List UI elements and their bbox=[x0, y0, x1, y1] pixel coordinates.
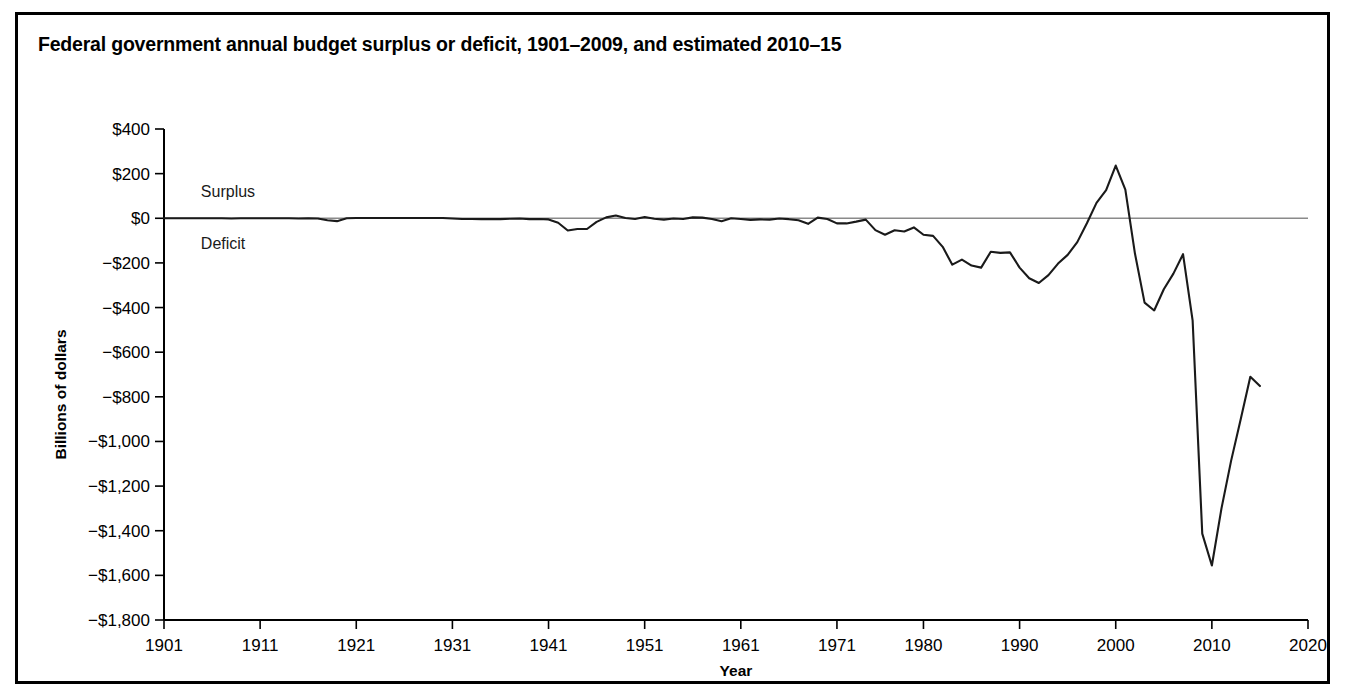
x-axis-title: Year bbox=[720, 662, 753, 679]
y-tick-label: −$1,800 bbox=[88, 611, 150, 630]
y-tick-label: $400 bbox=[112, 120, 150, 139]
x-tick-label: 1990 bbox=[1001, 636, 1039, 655]
y-tick-label: −$400 bbox=[102, 299, 150, 318]
x-tick-label: 1951 bbox=[626, 636, 664, 655]
y-tick-label: −$1,400 bbox=[88, 522, 150, 541]
plot-area: $400$200$0−$200−$400−$600−$800−$1,000−$1… bbox=[18, 15, 1327, 681]
x-tick-label: 2000 bbox=[1097, 636, 1135, 655]
x-tick-label: 2010 bbox=[1193, 636, 1231, 655]
x-tick-label: 1901 bbox=[145, 636, 183, 655]
x-tick-label: 1971 bbox=[818, 636, 856, 655]
y-tick-label: −$600 bbox=[102, 343, 150, 362]
budget-series-line bbox=[164, 166, 1260, 566]
x-tick-label: 1980 bbox=[905, 636, 943, 655]
y-axis-title: Billions of dollars bbox=[52, 329, 69, 459]
y-tick-label: −$1,600 bbox=[88, 566, 150, 585]
y-tick-label: $0 bbox=[131, 209, 150, 228]
y-tick-label: −$1,000 bbox=[88, 432, 150, 451]
x-tick-label: 1921 bbox=[337, 636, 375, 655]
y-tick-label: −$200 bbox=[102, 254, 150, 273]
figure-frame: Federal government annual budget surplus… bbox=[15, 12, 1330, 684]
x-tick-label: 1911 bbox=[242, 636, 279, 655]
y-axis-ticks: $400$200$0−$200−$400−$600−$800−$1,000−$1… bbox=[88, 120, 164, 630]
y-tick-label: −$800 bbox=[102, 388, 150, 407]
annotation-deficit: Deficit bbox=[201, 235, 246, 252]
x-axis-ticks: 1901191119211931194119511961197119801990… bbox=[145, 620, 1327, 655]
x-tick-label: 1961 bbox=[722, 636, 760, 655]
y-tick-label: $200 bbox=[112, 165, 150, 184]
x-tick-label: 1941 bbox=[530, 636, 568, 655]
x-tick-label: 2020 bbox=[1289, 636, 1327, 655]
x-tick-label: 1931 bbox=[433, 636, 471, 655]
annotation-surplus: Surplus bbox=[201, 183, 255, 200]
y-tick-label: −$1,200 bbox=[88, 477, 150, 496]
budget-line-chart: $400$200$0−$200−$400−$600−$800−$1,000−$1… bbox=[18, 15, 1333, 687]
